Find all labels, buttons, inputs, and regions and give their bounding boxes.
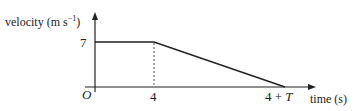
x-tick-4: 4 [150,89,157,104]
y-tick-7: 7 [80,35,87,50]
x-tick-4-plus-T: 4 + T [265,89,293,104]
y-axis-arrow-icon [92,12,98,20]
velocity-time-graph: velocity (m s−1) 7 O 4 4 + T time (s) [0,0,356,111]
origin-label: O [82,87,92,102]
velocity-line [95,42,285,87]
x-axis-label: time (s) [310,92,347,106]
y-axis-label: velocity (m s−1) [5,14,80,29]
x-axis-arrow-icon [308,84,316,90]
